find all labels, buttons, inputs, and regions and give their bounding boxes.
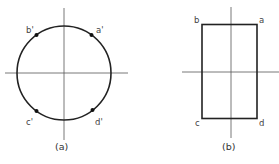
label-b-prime: b': [26, 25, 34, 35]
figure-b-caption: (b): [222, 141, 235, 152]
figure-a-caption: (a): [55, 141, 68, 152]
figure-b: a b c d (b): [182, 7, 279, 152]
label-d-prime: d': [95, 117, 103, 127]
point-b-prime: [35, 33, 39, 37]
figure-canvas: a' b' c' d' (a) a b c d (b): [0, 0, 279, 164]
label-a: a: [259, 15, 264, 25]
label-c-prime: c': [26, 117, 33, 127]
figure-b-rectangle: [202, 25, 257, 119]
label-c: c: [195, 118, 200, 128]
point-d-prime: [91, 108, 95, 112]
label-a-prime: a': [96, 25, 104, 35]
point-a-prime: [90, 33, 94, 37]
figure-a: a' b' c' d' (a): [5, 8, 128, 152]
label-b: b: [194, 15, 199, 25]
label-d: d: [259, 118, 264, 128]
point-c-prime: [35, 109, 39, 113]
